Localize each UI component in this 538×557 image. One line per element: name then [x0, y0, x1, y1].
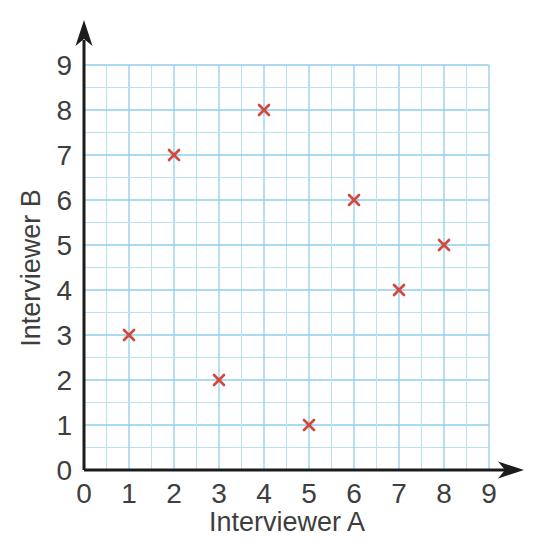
- y-tick-label: 9: [56, 50, 72, 81]
- x-axis-title: Interviewer A: [209, 509, 365, 536]
- plot-svg: 01234567890123456789: [0, 0, 538, 557]
- y-tick-label: 8: [56, 95, 72, 126]
- y-tick-label: 1: [56, 410, 72, 441]
- y-tick-label: 0: [56, 455, 72, 486]
- y-tick-label: 3: [56, 320, 72, 351]
- x-tick-label: 2: [166, 478, 182, 509]
- x-tick-label: 6: [346, 478, 362, 509]
- x-tick-label: 0: [76, 478, 92, 509]
- y-tick-label: 4: [56, 275, 72, 306]
- x-tick-label: 3: [211, 478, 227, 509]
- y-tick-label: 5: [56, 230, 72, 261]
- scatter-chart: 01234567890123456789 Interviewer A Inter…: [0, 0, 538, 557]
- x-tick-label: 4: [256, 478, 272, 509]
- y-tick-label: 2: [56, 365, 72, 396]
- x-tick-label: 7: [391, 478, 407, 509]
- y-tick-label: 6: [56, 185, 72, 216]
- y-axis-title: Interviewer B: [18, 189, 45, 347]
- x-tick-label: 9: [481, 478, 497, 509]
- x-tick-label: 8: [436, 478, 452, 509]
- y-tick-label: 7: [56, 140, 72, 171]
- x-tick-label: 5: [301, 478, 317, 509]
- x-tick-label: 1: [121, 478, 137, 509]
